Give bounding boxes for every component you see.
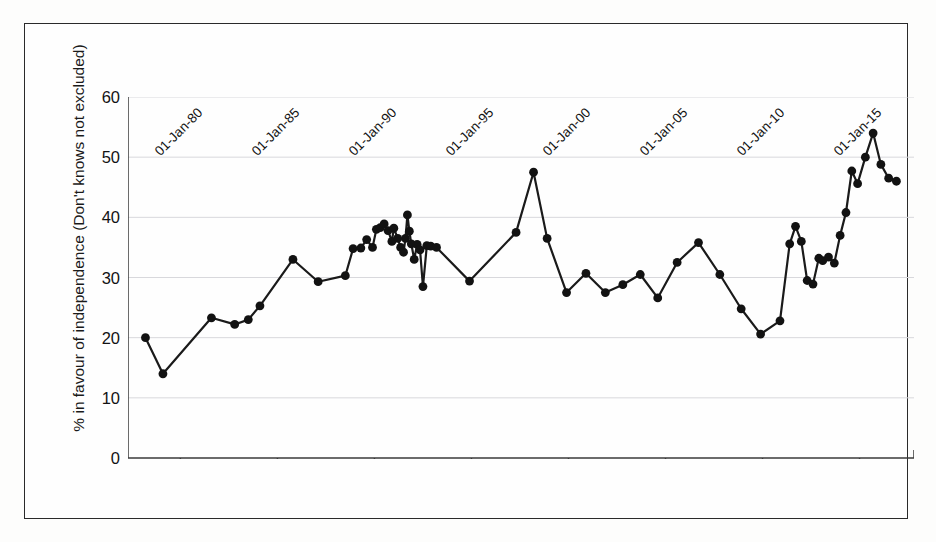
chart-svg (128, 97, 914, 459)
y-tick-label: 30 (76, 269, 120, 288)
chart-frame: % in favour of independence (Don't knows… (24, 23, 908, 519)
y-tick-label: 10 (76, 389, 120, 408)
y-tick-label: 40 (76, 208, 120, 227)
figure-container: % in favour of independence (Don't knows… (0, 0, 936, 542)
y-tick-label: 60 (76, 88, 120, 107)
y-tick-label: 50 (76, 148, 120, 167)
y-tick-label: 0 (76, 449, 120, 468)
plot-area: 0102030405060 01-Jan-8001-Jan-8501-Jan-9… (128, 97, 913, 458)
y-tick-label: 20 (76, 329, 120, 348)
